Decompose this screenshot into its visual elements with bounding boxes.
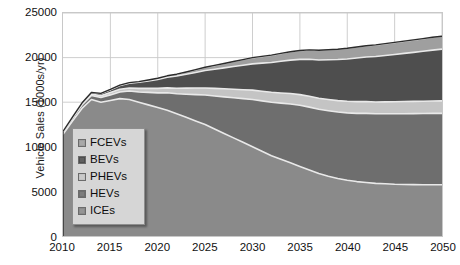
x-axis-tick-labels: 201020152020202520302035204020452050 xyxy=(0,0,460,265)
legend-swatch-icon xyxy=(78,156,86,164)
x-tick-label: 2025 xyxy=(192,241,218,253)
legend-swatch-icon xyxy=(78,173,86,181)
x-tick-label: 2040 xyxy=(335,241,361,253)
legend-swatch-icon xyxy=(78,139,86,147)
legend-item-bevs[interactable]: BEVs xyxy=(78,151,140,168)
legend-swatch-icon xyxy=(78,207,86,215)
legend-item-fcevs[interactable]: FCEVs xyxy=(78,134,140,151)
x-tick-label: 2020 xyxy=(144,241,170,253)
legend-label: ICEs xyxy=(90,205,115,217)
legend-swatch-icon xyxy=(78,190,86,198)
x-tick-label: 2015 xyxy=(97,241,123,253)
legend-label: BEVs xyxy=(90,154,119,166)
legend-item-phevs[interactable]: PHEVs xyxy=(78,168,140,185)
x-tick-label: 2035 xyxy=(287,241,313,253)
legend-label: PHEVs xyxy=(90,171,127,183)
legend-item-hevs[interactable]: HEVs xyxy=(78,185,140,202)
vehicle-sales-stacked-area-chart: Vehicle Sales (1000s/yr) 250002000015000… xyxy=(0,0,460,265)
legend-label: HEVs xyxy=(90,188,119,200)
x-tick-label: 2030 xyxy=(240,241,266,253)
x-tick-label: 2045 xyxy=(383,241,409,253)
chart-legend: FCEVsBEVsPHEVsHEVsICEs xyxy=(72,128,145,225)
x-tick-label: 2010 xyxy=(49,241,75,253)
legend-label: FCEVs xyxy=(90,137,126,149)
legend-item-ices[interactable]: ICEs xyxy=(78,202,140,219)
x-tick-label: 2050 xyxy=(430,241,456,253)
